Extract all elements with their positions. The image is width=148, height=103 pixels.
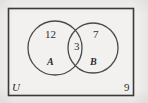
universal-set-rectangle — [9, 9, 134, 96]
region-count-outside: 9 — [124, 82, 130, 93]
set-a-label: A — [47, 57, 54, 67]
set-b-label: B — [90, 57, 97, 67]
region-count-a-only: 12 — [45, 29, 56, 40]
region-count-intersection: 3 — [74, 41, 80, 52]
venn-diagram-figure: 12 3 7 A B U 9 — [0, 0, 148, 103]
universal-set-label: U — [12, 82, 20, 93]
region-count-b-only: 7 — [93, 29, 99, 40]
